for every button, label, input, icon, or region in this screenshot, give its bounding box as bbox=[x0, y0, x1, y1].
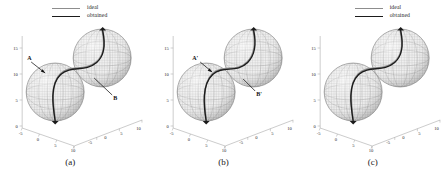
sphere-upper-c bbox=[371, 29, 429, 87]
x-tick-label: 0 bbox=[334, 137, 337, 142]
x-tick-label: -5 bbox=[170, 131, 175, 136]
panel-caption-c: (c) bbox=[301, 157, 445, 167]
legend-row-ideal: ideal bbox=[355, 4, 443, 12]
legend-swatch-ideal-icon bbox=[355, 8, 383, 9]
legend-label-ideal: ideal bbox=[390, 5, 402, 11]
legend-c: ideal obtained bbox=[355, 4, 443, 20]
y-tick-label: -5 bbox=[88, 140, 93, 145]
legend-a: ideal obtained bbox=[52, 4, 144, 20]
y-tick-label: 0 bbox=[255, 135, 258, 140]
z-axis-ticks-b: 15 10 5 0 bbox=[164, 46, 173, 129]
y-tick-label: 0 bbox=[104, 135, 107, 140]
y-tick-label: 5 bbox=[418, 131, 421, 136]
z-tick-label: 10 bbox=[164, 72, 169, 77]
y-tick-label: -5 bbox=[239, 140, 244, 145]
x-tick-label: 5 bbox=[54, 143, 57, 148]
legend-swatch-obtained-icon bbox=[355, 16, 383, 17]
z-axis-ticks-a: 15 10 5 0 bbox=[13, 46, 22, 129]
sphere-upper-b bbox=[224, 29, 282, 87]
x-axis-ticks-b: -5 0 5 10 bbox=[170, 128, 227, 153]
y-tick-label: 0 bbox=[402, 135, 405, 140]
z-tick-label: 0 bbox=[313, 124, 316, 129]
x-tick-label: 10 bbox=[71, 148, 76, 153]
z-tick-label: 15 bbox=[311, 46, 316, 51]
legend-swatch-obtained-icon bbox=[52, 16, 80, 17]
panel-c: 15 10 5 0 -5 0 5 10 -5 bbox=[297, 0, 445, 170]
annotation-label: B bbox=[113, 95, 117, 101]
y-axis-ticks-c: -5 0 5 10 bbox=[372, 120, 440, 149]
z-tick-label: 5 bbox=[15, 98, 18, 103]
annotation-label: A bbox=[27, 55, 32, 61]
x-tick-label: 10 bbox=[368, 148, 373, 153]
panel-a-plot: 15 10 5 0 -5 0 5 10 bbox=[0, 0, 148, 170]
sphere-lower-c bbox=[324, 63, 382, 121]
z-tick-label: 10 bbox=[13, 72, 18, 77]
y-tick-label: 5 bbox=[120, 131, 123, 136]
z-tick-label: 5 bbox=[313, 98, 316, 103]
legend-row-obtained: obtained bbox=[355, 12, 443, 20]
y-tick-label: 10 bbox=[136, 126, 141, 131]
z-tick-label: 15 bbox=[164, 46, 169, 51]
y-tick-label: 10 bbox=[287, 126, 292, 131]
x-tick-label: -5 bbox=[316, 131, 321, 136]
x-tick-label: 5 bbox=[352, 143, 355, 148]
x-tick-label: 0 bbox=[37, 137, 40, 142]
panel-caption-a: (a) bbox=[0, 157, 148, 167]
panel-caption-b: (b) bbox=[150, 157, 296, 167]
annotation-label: A' bbox=[192, 55, 198, 61]
z-axis-ticks-c: 15 10 5 0 bbox=[311, 46, 320, 129]
z-tick-label: 10 bbox=[311, 72, 316, 77]
legend-label-obtained: obtained bbox=[87, 13, 107, 19]
x-tick-label: 0 bbox=[188, 137, 191, 142]
x-tick-label: -5 bbox=[19, 131, 24, 136]
panel-a: 15 10 5 0 -5 0 5 10 bbox=[0, 0, 148, 170]
z-tick-label: 0 bbox=[15, 124, 18, 129]
z-tick-label: 15 bbox=[13, 46, 18, 51]
x-axis-ticks-a: -5 0 5 10 bbox=[19, 128, 76, 153]
legend-label-ideal: ideal bbox=[87, 5, 99, 11]
x-tick-label: 10 bbox=[222, 148, 227, 153]
legend-row-ideal: ideal bbox=[52, 4, 144, 12]
legend-label-obtained: obtained bbox=[390, 13, 410, 19]
y-axis-ticks-b: -5 0 5 10 bbox=[225, 120, 293, 149]
y-tick-label: 5 bbox=[271, 131, 274, 136]
y-axis-ticks-a: -5 0 5 10 bbox=[74, 120, 142, 149]
z-tick-label: 5 bbox=[167, 98, 170, 103]
x-axis-ticks-c: -5 0 5 10 bbox=[316, 128, 373, 153]
legend-row-obtained: obtained bbox=[52, 12, 144, 20]
y-tick-label: 10 bbox=[434, 126, 439, 131]
z-tick-label: 0 bbox=[167, 124, 170, 129]
panel-c-plot: 15 10 5 0 -5 0 5 10 -5 bbox=[297, 0, 445, 170]
x-tick-label: 5 bbox=[205, 143, 208, 148]
legend-swatch-ideal-icon bbox=[52, 8, 80, 9]
panel-b-plot: 15 10 5 0 -5 0 5 10 -5 bbox=[148, 0, 296, 170]
y-tick-label: -5 bbox=[386, 140, 391, 145]
figure-container: 15 10 5 0 -5 0 5 10 bbox=[0, 0, 445, 170]
sphere-lower-a bbox=[26, 63, 84, 121]
panel-b: 15 10 5 0 -5 0 5 10 -5 bbox=[148, 0, 296, 170]
sphere-upper-a bbox=[73, 29, 131, 87]
sphere-lower-b bbox=[177, 63, 235, 121]
annotation-label: B' bbox=[256, 91, 262, 97]
